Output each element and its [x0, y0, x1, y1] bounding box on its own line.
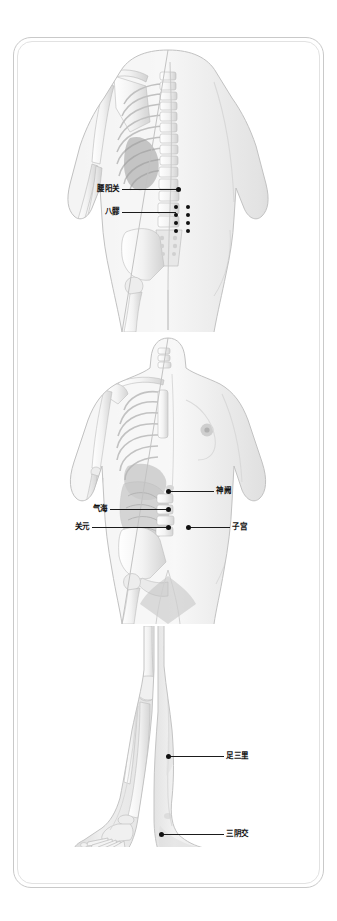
label-zigong: 子宫: [232, 522, 247, 531]
label-qihai: 气海: [74, 504, 108, 513]
chart-page: 腰阳关 八髎: [0, 0, 337, 921]
label-shenque: 神阙: [216, 486, 231, 495]
acupoint-dot-yaoyangguan[interactable]: [176, 187, 181, 192]
leader-line-qihai: [110, 509, 168, 510]
acupoint-dot-baliao-l4[interactable]: [174, 229, 178, 233]
acupoint-dot-baliao-r3[interactable]: [186, 221, 190, 225]
acupoint-dot-baliao-r4[interactable]: [186, 229, 190, 233]
acupoint-dot-baliao-l2[interactable]: [174, 213, 178, 217]
figure-stage: 腰阳关 八髎: [18, 42, 319, 847]
front-body-illustration: [18, 334, 319, 624]
panel-front-view: 神阙 气海 关元 子宫: [18, 334, 319, 624]
label-baliao: 八髎: [76, 207, 120, 216]
panel-back-view: 腰阳关 八髎: [18, 42, 319, 332]
acupoint-dot-baliao-r1[interactable]: [186, 205, 190, 209]
leader-line-zigong: [190, 527, 230, 528]
acupoint-dot-shenque[interactable]: [166, 489, 171, 494]
panel-legs-view: 足三里 三阴交: [18, 626, 319, 847]
leader-line-baliao: [122, 212, 176, 213]
label-yaoyangguan: 腰阳关: [68, 184, 120, 193]
label-zusanli: 足三里: [226, 751, 249, 760]
leader-line-sanyinjiao: [163, 834, 224, 835]
acupoint-dot-qihai[interactable]: [166, 507, 171, 512]
acupoint-dot-zusanli[interactable]: [166, 754, 171, 759]
label-sanyinjiao: 三阴交: [226, 829, 249, 838]
leader-line-zusanli: [170, 756, 224, 757]
acupoint-dot-baliao-r2[interactable]: [186, 213, 190, 217]
acupoint-dot-zigong[interactable]: [186, 525, 191, 530]
leader-line-yaoyangguan: [122, 189, 178, 190]
acupoint-dot-baliao-l3[interactable]: [174, 221, 178, 225]
leader-line-guanyuan: [92, 527, 168, 528]
label-guanyuan: 关元: [56, 522, 90, 531]
legs-illustration: [18, 626, 319, 847]
acupoint-dot-guanyuan[interactable]: [166, 525, 171, 530]
back-body-illustration: [18, 42, 319, 332]
acupoint-dot-sanyinjiao[interactable]: [159, 832, 164, 837]
spine: [158, 72, 179, 227]
acupoint-dot-baliao-l1[interactable]: [174, 205, 178, 209]
leader-line-shenque: [170, 491, 214, 492]
